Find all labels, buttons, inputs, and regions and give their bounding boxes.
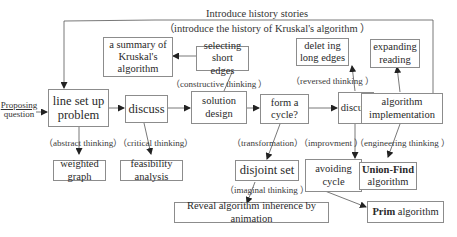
history-kruskal-caption: （introduce the history of Kruskal's algo…	[164, 24, 370, 35]
node-kruskal-summary: a summary of Kruskal's algorithm	[103, 37, 173, 77]
node-form-a-cycle: form a cycle?	[260, 94, 309, 124]
node-union-find-algorithm: Union-Findalgorithm	[359, 162, 417, 190]
node-deleting-long-edges: delet ing long edges	[296, 38, 349, 66]
node-label: discuss	[128, 102, 164, 116]
node-label: Prim algorithm	[372, 206, 438, 218]
node-label: Union-Findalgorithm	[362, 164, 414, 188]
label-critical-thinking: （critical thinking）	[118, 139, 193, 148]
node-label: weighted graph	[60, 158, 99, 182]
teaching-flow-diagram: Introduce history stories （introduce the…	[0, 0, 457, 237]
proposing-question-label: Proposing question	[0, 101, 38, 120]
node-selecting-short-edges: selecting short edges	[196, 46, 249, 71]
label-engineering-thinking: （engineering thinking ）	[355, 139, 450, 148]
label-reversed-thinking: （reversed thinking ）	[291, 77, 374, 86]
node-solution-design: solution design	[191, 91, 247, 124]
node-label: algorithm implementation	[369, 96, 435, 120]
node-label: solution design	[202, 95, 236, 119]
node-label: Reveal algorithm inherence by animation	[177, 200, 326, 224]
node-weighted-graph: weighted graph	[53, 160, 106, 181]
history-stories-caption: Introduce history stories	[206, 9, 308, 20]
prim-bold: Prim	[372, 206, 395, 217]
label-constructive-thinking: （constructive thinking ）	[171, 80, 268, 89]
prim-rest: algorithm	[395, 206, 438, 217]
union-find-rest: algorithm	[368, 176, 409, 187]
node-label: expanding reading	[373, 41, 417, 65]
node-label: avoiding cycle	[315, 163, 352, 187]
node-algorithm-implementation: algorithm implementation	[361, 93, 443, 124]
union-find-bold: Union-Find	[362, 164, 414, 175]
node-label: selecting short edges	[199, 40, 246, 76]
node-reveal-animation: Reveal algorithm inherence by animation	[174, 202, 329, 223]
label-abstract-thinking: （abstract thinking）	[44, 139, 122, 148]
label-improvement: （improvment ）	[299, 139, 363, 148]
node-avoiding-cycle: avoiding cycle	[305, 159, 362, 192]
node-label: a summary of Kruskal's algorithm	[109, 39, 167, 75]
node-label: feasibility analysis	[131, 158, 173, 182]
node-disjoint-set: disjoint set	[235, 160, 299, 181]
label-transformation: （transformation）	[232, 139, 303, 148]
node-label: form a cycle?	[271, 97, 299, 121]
node-label: delet ing long edges	[300, 40, 345, 64]
node-label: disjoint set	[240, 163, 295, 177]
node-line-set-up-problem: line set up problem	[48, 89, 109, 127]
node-discuss-1: discuss	[125, 95, 168, 123]
node-feasibility-analysis: feasibility analysis	[120, 160, 183, 181]
node-label: line set up problem	[53, 94, 104, 123]
label-imaginal-thinking: （imaginal thinking ）	[225, 186, 309, 195]
node-prim-algorithm: Prim algorithm	[367, 201, 444, 223]
node-expanding-reading: expanding reading	[370, 39, 420, 68]
question-text: question	[0, 110, 38, 119]
